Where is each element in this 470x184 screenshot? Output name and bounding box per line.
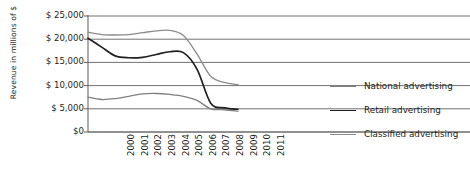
x-axis-tick-labels: 2000200120022003200420052006200720082009… bbox=[88, 134, 240, 184]
x-axis-tick-label: 2010 bbox=[262, 134, 272, 168]
data-series-group bbox=[88, 30, 238, 111]
legend-line-national-icon bbox=[330, 86, 356, 87]
legend-item-classified: Classified advertising bbox=[330, 124, 470, 144]
legend-item-retail: Retail advertising bbox=[330, 100, 470, 120]
y-axis-tick-marks bbox=[84, 16, 88, 132]
legend-line-retail-icon bbox=[330, 110, 356, 111]
x-axis-tick-label: 2011 bbox=[276, 134, 286, 168]
x-axis-tick-label: 2005 bbox=[194, 134, 204, 168]
legend-label-retail: Retail advertising bbox=[364, 105, 441, 115]
legend-item-national: National advertising bbox=[330, 76, 470, 96]
x-axis-tick-label: 2002 bbox=[153, 134, 163, 168]
x-axis-tick-label: 2000 bbox=[126, 134, 136, 168]
x-axis-tick-label: 2001 bbox=[140, 134, 150, 168]
x-axis-tick-label: 2004 bbox=[181, 134, 191, 168]
series-line bbox=[88, 30, 238, 85]
x-axis-tick-label: 2003 bbox=[167, 134, 177, 168]
legend-label-classified: Classified advertising bbox=[364, 129, 458, 139]
line-chart-figure: Revenue in millions of $ $ 25,000$ 20,00… bbox=[0, 0, 470, 184]
x-axis-tick-label: 2008 bbox=[235, 134, 245, 168]
chart-legend: National advertising Retail advertising … bbox=[330, 76, 470, 148]
x-axis-tick-label: 2009 bbox=[249, 134, 259, 168]
x-axis-tick-label: 2007 bbox=[221, 134, 231, 168]
legend-line-classified-icon bbox=[330, 134, 356, 135]
legend-label-national: National advertising bbox=[364, 81, 453, 91]
x-axis-tick-label: 2006 bbox=[208, 134, 218, 168]
